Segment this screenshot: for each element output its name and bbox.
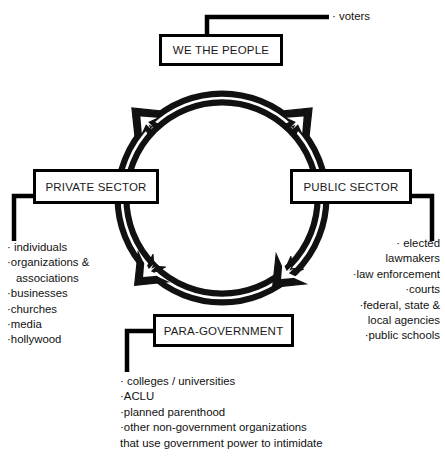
list-item: ·media xyxy=(7,317,89,332)
connector-we-the-people-voters xyxy=(207,17,329,35)
list-item: · voters xyxy=(332,9,370,24)
list-item: ·hollywood xyxy=(7,332,89,347)
node-private-sector[interactable]: PRIVATE SECTOR xyxy=(33,169,159,204)
list-item: associations xyxy=(7,271,89,286)
list-item: ·public schools xyxy=(353,328,440,343)
list-item: lawmakers xyxy=(353,251,440,266)
list-voters: · voters xyxy=(332,9,370,24)
list-item: ·organizations & xyxy=(7,255,89,270)
list-item: · colleges / universities xyxy=(120,374,323,389)
node-para-government[interactable]: PARA-GOVERNMENT xyxy=(153,314,294,347)
list-item: ·planned parenthood xyxy=(120,405,323,420)
node-public-sector[interactable]: PUBLIC SECTOR xyxy=(290,169,412,204)
list-public-sector: · elected lawmakers ·law enforcement ·co… xyxy=(353,236,440,344)
list-item: ·businesses xyxy=(7,286,89,301)
connector-para-government-list xyxy=(127,331,154,372)
list-item: ·law enforcement xyxy=(353,267,440,282)
node-label-we-the-people: WE THE PEOPLE xyxy=(173,44,269,56)
list-item: local agencies xyxy=(353,313,440,328)
list-item: ·churches xyxy=(7,302,89,317)
list-item: ·ACLU xyxy=(120,389,323,404)
list-item: · individuals xyxy=(7,240,89,255)
list-item: ·other non-government organizations xyxy=(120,420,323,435)
node-label-public-sector: PUBLIC SECTOR xyxy=(303,181,398,193)
list-item: that use government power to intimidate xyxy=(120,436,323,451)
list-item: ·courts xyxy=(353,282,440,297)
list-para-government: · colleges / universities ·ACLU ·planned… xyxy=(120,374,323,451)
node-we-the-people[interactable]: WE THE PEOPLE xyxy=(159,34,283,66)
connector-private-sector-list xyxy=(14,196,34,241)
list-item: · elected xyxy=(353,236,440,251)
node-label-private-sector: PRIVATE SECTOR xyxy=(45,181,146,193)
node-label-para-government: PARA-GOVERNMENT xyxy=(164,325,284,337)
list-item: ·federal, state & xyxy=(353,298,440,313)
list-private-sector: · individuals ·organizations & associati… xyxy=(7,240,89,348)
connector-public-sector-list xyxy=(411,196,432,241)
